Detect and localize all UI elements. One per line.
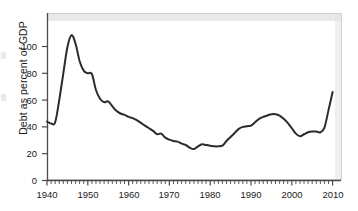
x-tick-label-1970: 1970: [153, 189, 185, 200]
plot-top-band: [48, 14, 341, 21]
chart-canvas: [0, 0, 358, 211]
x-tick-label-1950: 1950: [72, 189, 104, 200]
x-tick-label-2010: 2010: [317, 189, 349, 200]
y-tick-label-60: 60: [13, 95, 37, 106]
plot-frame: [48, 14, 342, 180]
y-tick-label-20: 20: [13, 148, 37, 159]
y-axis-ticks: [42, 47, 48, 181]
y-tick-label-40: 40: [13, 121, 37, 132]
x-tick-label-1940: 1940: [31, 189, 63, 200]
x-tick-label-1990: 1990: [235, 189, 267, 200]
debt-to-gdp-chart-figure: Debt as percent of GDP 100 80 60 40 20 0…: [0, 0, 358, 211]
y-tick-label-0: 0: [13, 175, 37, 186]
x-tick-label-2000: 2000: [276, 189, 308, 200]
x-tick-label-1980: 1980: [194, 189, 226, 200]
plot-right-band: [335, 14, 341, 179]
y-tick-label-80: 80: [13, 68, 37, 79]
x-tick-label-1960: 1960: [113, 189, 145, 200]
y-tick-label-100: 100: [13, 41, 37, 52]
